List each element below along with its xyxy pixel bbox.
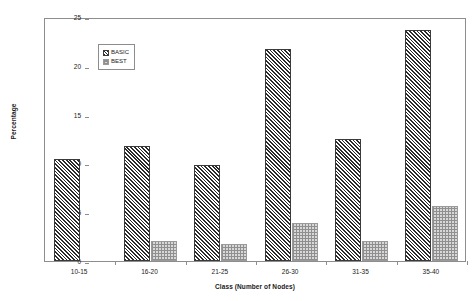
bar-best-31-35 <box>362 241 388 261</box>
bar-best-26-30 <box>292 223 318 261</box>
chart-legend: BASIC BEST <box>98 44 135 70</box>
bar-basic-26-30 <box>265 49 291 261</box>
bar-best-21-25 <box>221 244 247 261</box>
x-axis-tick-label: 21-25 <box>212 268 229 275</box>
y-axis-tick-mark <box>85 165 89 166</box>
y-axis-tick-mark <box>85 117 89 118</box>
y-axis-tick-mark <box>85 68 89 69</box>
y-axis-tick-mark <box>85 19 89 20</box>
bar-basic-10-15 <box>54 159 80 261</box>
y-axis-tick-mark <box>85 214 89 215</box>
x-axis-tick-mark <box>186 261 187 265</box>
legend-label-basic: BASIC <box>111 48 129 57</box>
y-axis-title: Percentage <box>10 77 17 167</box>
bar-basic-35-40 <box>405 30 431 261</box>
bar-basic-21-25 <box>194 165 220 261</box>
x-axis-tick-mark <box>256 261 257 265</box>
legend-label-best: BEST <box>111 57 127 66</box>
bar-chart: Percentage 0510152025 BASIC BEST 10-1516… <box>0 0 474 301</box>
y-axis-tick-mark <box>85 263 89 264</box>
legend-swatch-basic-icon <box>103 50 109 56</box>
x-axis-tick-label: 16-20 <box>141 268 158 275</box>
x-axis-tick-label: 31-35 <box>352 268 369 275</box>
x-axis-title: Class (Number of Nodes) <box>44 283 466 290</box>
y-axis-tick-label: 15 <box>74 112 81 119</box>
x-axis-tick-label: 26-30 <box>282 268 299 275</box>
plot-area: 0510152025 BASIC BEST <box>44 18 466 262</box>
x-axis-tick-mark <box>467 261 468 265</box>
x-axis-tick-label: 35-40 <box>423 268 440 275</box>
legend-item-basic: BASIC <box>103 48 129 57</box>
bar-best-35-40 <box>432 206 458 261</box>
x-axis-tick-mark <box>326 261 327 265</box>
y-axis-tick-label: 25 <box>74 14 81 21</box>
y-axis-tick-label: 20 <box>74 63 81 70</box>
legend-swatch-best-icon <box>103 59 109 65</box>
bar-best-16-20 <box>151 241 177 261</box>
bar-basic-16-20 <box>124 146 150 261</box>
x-axis-tick-mark <box>115 261 116 265</box>
legend-item-best: BEST <box>103 57 129 66</box>
x-axis-tick-label: 10-15 <box>71 268 88 275</box>
bar-basic-31-35 <box>335 139 361 261</box>
x-axis-tick-mark <box>397 261 398 265</box>
